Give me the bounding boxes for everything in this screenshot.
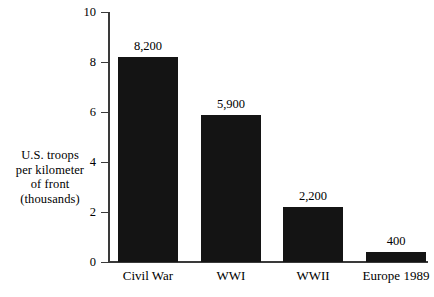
- bar-wwi[interactable]: [201, 115, 261, 263]
- bar-wwii[interactable]: [283, 207, 343, 262]
- x-axis-category-label: Europe 1989: [346, 268, 434, 283]
- bar-value-label: 5,900: [189, 98, 273, 111]
- bar-value-label: 8,200: [106, 40, 190, 53]
- bar-value-label: 2,200: [271, 190, 355, 203]
- bar-value-label: 400: [354, 235, 434, 248]
- bar-civil-war[interactable]: [118, 57, 178, 262]
- bar-europe-1989[interactable]: [366, 252, 426, 262]
